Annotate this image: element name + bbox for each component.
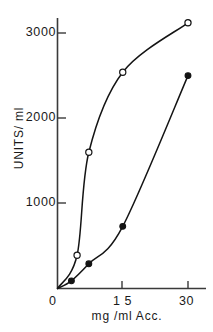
data-point-open-circle-4: [185, 20, 191, 26]
x-tick-label-0: 0: [49, 294, 57, 308]
x-tick-label-15: 1 5: [113, 294, 132, 308]
data-series-layer: [58, 20, 192, 289]
x-tick-label-30: 30: [179, 294, 194, 308]
chart-plot-area: [0, 0, 213, 332]
data-point-filled-circle-1: [69, 278, 75, 284]
chart-figure: 3000 2000 1000 0 1 5 30 UNITS/ ml mg /ml…: [0, 0, 213, 332]
data-point-open-circle-1: [74, 252, 80, 258]
x-axis-title: mg /ml Acc.: [57, 309, 197, 323]
data-point-filled-circle-2: [86, 261, 92, 267]
data-point-filled-circle-4: [185, 73, 191, 79]
data-point-open-circle-2: [86, 149, 92, 155]
data-point-open-circle-3: [120, 69, 126, 75]
curve-open-circle-series: [58, 23, 189, 289]
y-tick-label-1000: 1000: [26, 195, 56, 209]
y-tick-label-2000: 2000: [26, 110, 56, 124]
y-axis-title: UNITS/ ml: [12, 98, 26, 178]
y-tick-label-3000: 3000: [26, 25, 56, 39]
data-point-filled-circle-3: [120, 223, 126, 229]
